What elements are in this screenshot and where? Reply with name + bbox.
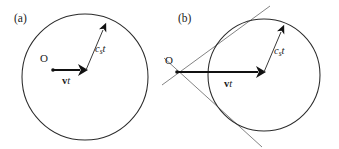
panel-a-velocity-label: vt (62, 75, 71, 86)
panel-a-sound-symbol-t: t (103, 43, 107, 54)
panel-a-label: (a) (14, 12, 27, 25)
panel-b-origin-label: O (165, 54, 173, 66)
panel-a-wavefront-circle (22, 14, 148, 140)
panel-b: (b) O vt cst (162, 6, 320, 147)
panel-a-sound-label: cst (95, 43, 107, 56)
panel-b-velocity-symbol-t: t (229, 78, 233, 89)
panel-b-wavefront-circle (208, 19, 320, 131)
panel-a-velocity-symbol-t: t (67, 75, 71, 86)
panel-b-velocity-label: vt (224, 78, 233, 89)
panel-b-label: (b) (178, 12, 192, 25)
figure-container: (a) O vt cst (b) O vt (0, 0, 339, 149)
panel-a-origin-label: O (40, 52, 48, 64)
panel-b-sound-label: cst (274, 45, 286, 58)
panel-b-sound-symbol-t: t (282, 45, 286, 56)
wavefront-diagram: (a) O vt cst (b) O vt (0, 0, 339, 149)
panel-a: (a) O vt cst (14, 12, 148, 140)
